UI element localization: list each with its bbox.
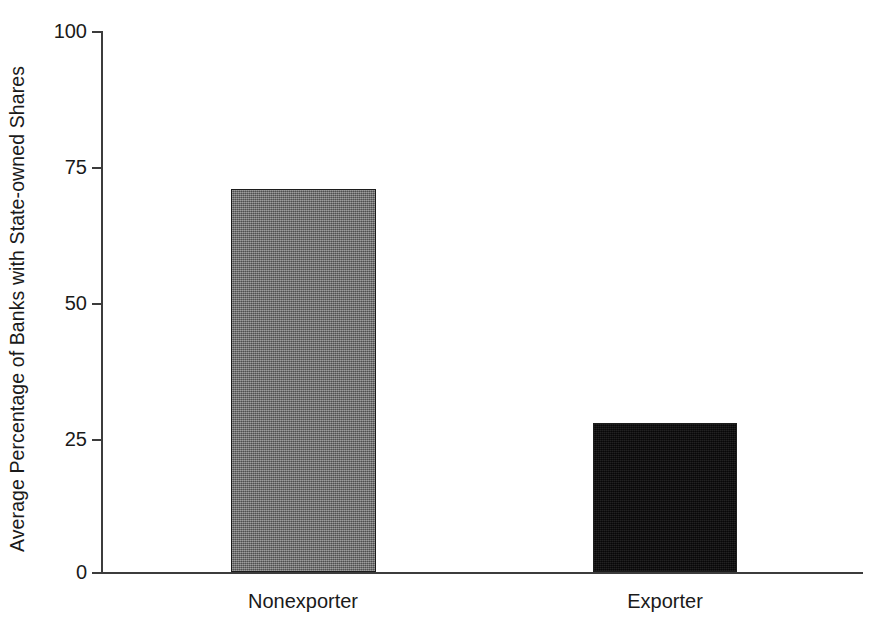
y-tick-label-100: 100 bbox=[17, 21, 87, 41]
bar-nonexporter bbox=[231, 189, 376, 572]
bar-chart-figure: Average Percentage of Banks with State-o… bbox=[0, 0, 873, 618]
y-tick-50 bbox=[92, 303, 101, 305]
x-tick-label-nonexporter: Nonexporter bbox=[248, 591, 358, 611]
y-tick-100 bbox=[92, 31, 101, 33]
y-axis-line bbox=[101, 31, 103, 574]
y-tick-label-25: 25 bbox=[17, 429, 87, 449]
y-tick-75 bbox=[92, 167, 101, 169]
y-tick-0 bbox=[92, 572, 101, 574]
y-tick-25 bbox=[92, 439, 101, 441]
y-tick-label-50: 50 bbox=[17, 293, 87, 313]
plot-area: 100 75 50 25 0 Nonexporter Exporter bbox=[101, 31, 863, 574]
y-tick-label-75: 75 bbox=[17, 157, 87, 177]
bar-exporter bbox=[593, 423, 737, 572]
x-axis-line bbox=[101, 572, 863, 574]
x-tick-label-exporter: Exporter bbox=[627, 591, 703, 611]
y-tick-label-group: 100 75 50 25 0 bbox=[15, 31, 87, 574]
y-tick-label-0: 0 bbox=[17, 562, 87, 582]
